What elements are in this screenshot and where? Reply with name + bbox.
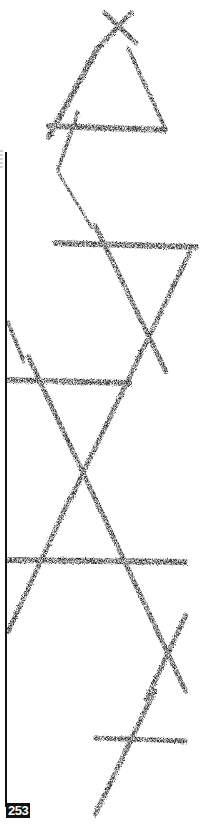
charcoal-stroke-lower-left-diagonal	[8, 498, 70, 632]
charcoal-stroke-down-left-diagonal	[70, 252, 190, 500]
charcoal-stroke-top-right-leg	[128, 48, 165, 128]
charcoal-stroke-mid-left-lower	[57, 172, 91, 228]
charcoal-stroke-top-x-b	[98, 12, 132, 48]
charcoal-stroke-bottom-diagonal	[95, 690, 155, 815]
charcoal-stroke-left-upper-diagonal	[8, 322, 24, 362]
charcoal-stroke-lower-right-x	[146, 615, 186, 700]
charcoal-stroke-down-left-diagonal	[69, 251, 189, 499]
scanned-page: 253	[0, 0, 203, 840]
charcoal-stroke-left-upper-diagonal	[7, 322, 23, 362]
charcoal-stroke-mid-left-lower	[58, 172, 92, 228]
charcoal-stroke-left-long-diagonal	[28, 356, 186, 692]
charcoal-stroke-lower-right-x	[145, 614, 185, 699]
charcoal-stroke-left-long-diagonal	[27, 357, 185, 693]
charcoal-stroke-lower-left-diagonal	[7, 497, 69, 631]
page-number: 253	[6, 803, 30, 818]
charcoal-stroke-top-x-b	[97, 11, 131, 47]
charcoal-stroke-top-right-leg	[127, 48, 164, 128]
charcoal-stroke-bottom-diagonal	[94, 689, 154, 814]
charcoal-artwork	[0, 0, 203, 840]
stroke-group	[7, 11, 197, 816]
